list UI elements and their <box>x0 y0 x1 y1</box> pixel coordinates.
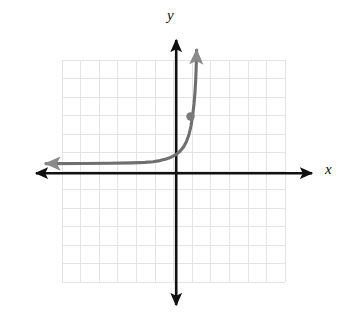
y-axis-label: y <box>167 8 174 23</box>
grid <box>62 60 285 282</box>
x-axis-label: x <box>325 162 332 177</box>
coordinate-plane <box>0 0 346 322</box>
graph-figure: y x <box>0 0 346 322</box>
marked-point <box>186 112 194 120</box>
